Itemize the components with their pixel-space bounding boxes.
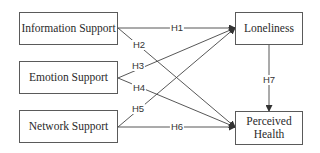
edge-label-h6: H6: [170, 122, 184, 132]
edge-label-h3: H3: [131, 61, 145, 71]
node-label: Network Support: [29, 120, 109, 133]
node-label: Loneliness: [244, 22, 294, 35]
edge-label-h7: H7: [262, 75, 276, 85]
edge-label-h2: H2: [132, 40, 146, 50]
node-perceived-health: Perceived Health: [235, 111, 303, 145]
node-label: Information Support: [21, 22, 115, 35]
node-label: Emotion Support: [29, 71, 108, 84]
edge-label-h1: H1: [170, 23, 184, 33]
node-loneliness: Loneliness: [235, 12, 303, 45]
node-information-support: Information Support: [19, 12, 118, 45]
node-network-support: Network Support: [19, 110, 118, 143]
node-label-line1: Perceived: [246, 115, 291, 128]
node-label-line2: Health: [254, 128, 285, 141]
edge-label-h5: H5: [131, 104, 145, 114]
path-diagram: Information Support Emotion Support Netw…: [0, 0, 320, 153]
edge-label-h4: H4: [132, 83, 146, 93]
node-emotion-support: Emotion Support: [19, 61, 118, 94]
